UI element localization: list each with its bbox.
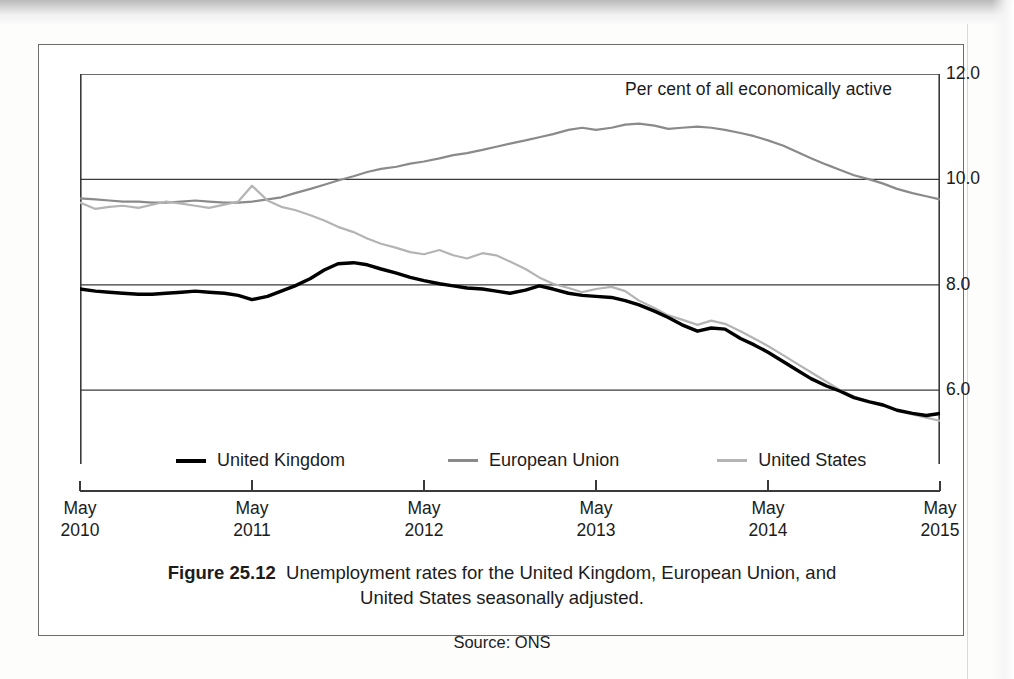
x-axis-tick-label: May2015 bbox=[895, 497, 985, 542]
chart-legend: United Kingdom European Union United Sta… bbox=[176, 450, 876, 471]
scan-artifact-right-edge bbox=[992, 0, 1014, 679]
x-tick-year: 2013 bbox=[551, 519, 641, 541]
y-axis-tick-label: 10.0 bbox=[946, 170, 980, 188]
x-tick-year: 2010 bbox=[35, 519, 125, 541]
figure-source: Source: ONS bbox=[87, 633, 917, 652]
y-axis-tick-label: 12.0 bbox=[946, 65, 980, 83]
chart-plot-area: 12.0 10.0 8.0 6.0 United Kingdom Europea… bbox=[80, 74, 940, 464]
caption-space bbox=[276, 562, 286, 583]
x-tickmark bbox=[423, 480, 425, 491]
legend-item-united-states[interactable]: United States bbox=[717, 450, 866, 471]
legend-swatch-line-icon bbox=[717, 459, 747, 462]
x-tick-year: 2011 bbox=[207, 519, 297, 541]
x-tick-month: May bbox=[35, 497, 125, 519]
chart-svg bbox=[80, 74, 940, 464]
figure-caption: Figure 25.12 Unemployment rates for the … bbox=[87, 561, 917, 611]
legend-swatch-line-icon bbox=[176, 459, 206, 463]
x-tickmark bbox=[79, 481, 81, 491]
legend-label: United States bbox=[758, 450, 866, 471]
legend-label: United Kingdom bbox=[217, 450, 345, 471]
legend-label: European Union bbox=[489, 450, 619, 471]
chart-gridlines bbox=[80, 74, 940, 390]
x-tick-year: 2012 bbox=[379, 519, 469, 541]
scanned-page: Per cent of all economically active 12.0… bbox=[0, 0, 1014, 679]
legend-item-united-kingdom[interactable]: United Kingdom bbox=[176, 450, 345, 471]
series-line-united-states bbox=[80, 186, 940, 421]
x-axis-tick-labels: May2010May2011May2012May2013May2014May20… bbox=[80, 497, 940, 549]
series-line-united-kingdom bbox=[80, 263, 940, 416]
x-tickmark bbox=[767, 480, 769, 491]
chart-series-lines bbox=[80, 124, 940, 421]
x-axis-line bbox=[80, 490, 940, 492]
scan-artifact-top-band bbox=[0, 0, 1014, 14]
x-axis-tick-label: May2011 bbox=[207, 497, 297, 542]
x-axis-tick-label: May2012 bbox=[379, 497, 469, 542]
x-tick-year: 2014 bbox=[723, 519, 813, 541]
x-axis-tick-label: May2013 bbox=[551, 497, 641, 542]
series-line-european-union bbox=[80, 124, 940, 203]
x-tick-month: May bbox=[723, 497, 813, 519]
x-tick-year: 2015 bbox=[895, 519, 985, 541]
x-axis-tick-label: May2010 bbox=[35, 497, 125, 542]
legend-item-european-union[interactable]: European Union bbox=[448, 450, 619, 471]
scan-artifact-gutter-line bbox=[967, 24, 968, 679]
x-tickmark bbox=[251, 480, 253, 491]
legend-swatch-line-icon bbox=[448, 459, 478, 462]
x-axis-tick-label: May2014 bbox=[723, 497, 813, 542]
figure-box: Per cent of all economically active 12.0… bbox=[38, 44, 964, 636]
x-tick-month: May bbox=[895, 497, 985, 519]
caption-line-1: Unemployment rates for the United Kingdo… bbox=[286, 562, 836, 583]
caption-line-2: United States seasonally adjusted. bbox=[87, 586, 917, 611]
y-axis-tick-label: 6.0 bbox=[946, 381, 970, 399]
chart-x-axis bbox=[80, 477, 940, 493]
figure-number-label: Figure 25.12 bbox=[168, 562, 276, 583]
x-tick-month: May bbox=[207, 497, 297, 519]
x-tick-month: May bbox=[551, 497, 641, 519]
x-tickmark bbox=[939, 481, 941, 491]
scan-artifact-top-band-secondary bbox=[0, 14, 1014, 24]
x-tick-month: May bbox=[379, 497, 469, 519]
y-axis-tick-label: 8.0 bbox=[946, 276, 970, 294]
x-tickmark bbox=[595, 480, 597, 491]
